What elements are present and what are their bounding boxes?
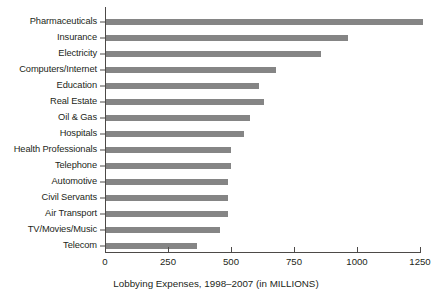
category-tick (100, 22, 105, 23)
chart-row: Electricity (105, 46, 425, 62)
category-label: Electricity (58, 49, 97, 58)
category-label: Telecom (63, 241, 97, 250)
chart-row: Oil & Gas (105, 110, 425, 126)
bar (106, 227, 220, 233)
x-tick-label: 1250 (409, 257, 430, 267)
category-label: Automotive (51, 177, 97, 186)
category-tick (100, 182, 105, 183)
bar (106, 195, 228, 201)
x-tick (357, 247, 358, 253)
x-tick (168, 247, 169, 253)
category-tick (100, 166, 105, 167)
category-tick (100, 230, 105, 231)
chart-row: Hospitals (105, 126, 425, 142)
lobbying-expenses-bar-chart: PharmaceuticalsInsuranceElectricityCompu… (0, 0, 432, 299)
x-tick (294, 247, 295, 253)
category-label: Oil & Gas (58, 113, 97, 122)
x-tick (231, 247, 232, 253)
category-tick (100, 198, 105, 199)
chart-row: Pharmaceuticals (105, 14, 425, 30)
category-tick (100, 134, 105, 135)
category-label: TV/Movies/Music (28, 225, 97, 234)
chart-row: TV/Movies/Music (105, 222, 425, 238)
bar (106, 51, 321, 57)
category-label: Air Transport (45, 209, 97, 218)
chart-row: Telephone (105, 158, 425, 174)
bar (106, 99, 264, 105)
x-tick (420, 247, 421, 253)
category-label: Insurance (57, 33, 97, 42)
x-axis-caption: Lobbying Expenses, 1998–2007 (in MILLION… (0, 279, 432, 289)
bar (106, 179, 228, 185)
bar (106, 35, 348, 41)
bar (106, 131, 244, 137)
category-tick (100, 150, 105, 151)
category-label: Real Estate (50, 97, 97, 106)
category-label: Civil Servants (42, 193, 97, 202)
x-tick-label: 250 (160, 257, 176, 267)
x-tick (105, 247, 106, 253)
bar (106, 211, 228, 217)
chart-row: Health Professionals (105, 142, 425, 158)
chart-row: Education (105, 78, 425, 94)
bar (106, 115, 250, 121)
category-label: Computers/Internet (19, 65, 97, 74)
category-label: Education (57, 81, 97, 90)
chart-row: Real Estate (105, 94, 425, 110)
bar (106, 147, 231, 153)
x-tick-label: 1000 (346, 257, 367, 267)
bar (106, 19, 423, 25)
category-tick (100, 38, 105, 39)
bar (106, 67, 276, 73)
chart-row: Automotive (105, 174, 425, 190)
x-tick-label: 750 (286, 257, 302, 267)
x-tick-label: 500 (223, 257, 239, 267)
category-tick (100, 70, 105, 71)
category-tick (100, 102, 105, 103)
x-tick-label: 0 (102, 257, 107, 267)
category-label: Telephone (55, 161, 97, 170)
chart-row: Computers/Internet (105, 62, 425, 78)
category-tick (100, 54, 105, 55)
category-tick (100, 214, 105, 215)
bar (106, 83, 259, 89)
bar (106, 243, 197, 249)
category-label: Pharmaceuticals (30, 17, 97, 26)
category-tick (100, 118, 105, 119)
chart-row: Air Transport (105, 206, 425, 222)
category-label: Health Professionals (14, 145, 97, 154)
chart-row: Civil Servants (105, 190, 425, 206)
plot-area: PharmaceuticalsInsuranceElectricityCompu… (105, 8, 425, 252)
category-tick (100, 86, 105, 87)
chart-row: Telecom (105, 238, 425, 254)
chart-row: Insurance (105, 30, 425, 46)
category-label: Hospitals (60, 129, 97, 138)
bar (106, 163, 231, 169)
